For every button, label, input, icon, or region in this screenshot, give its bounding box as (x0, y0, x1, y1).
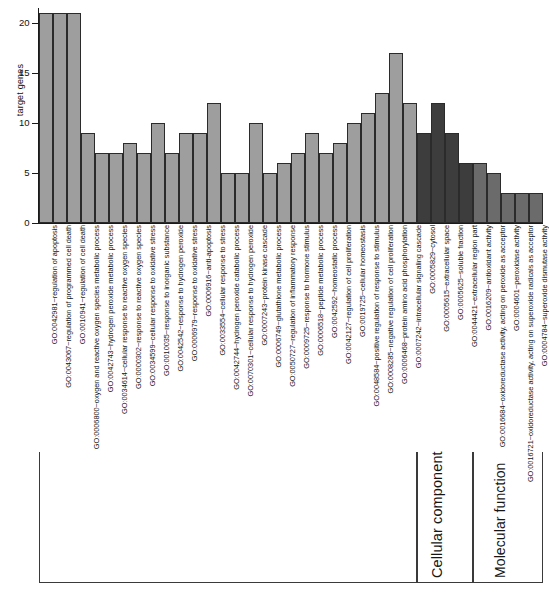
category-label: GO:0009725~response to hormone stimulus (302, 225, 311, 369)
bar (431, 103, 445, 223)
category-label: GO:0000302~response to reactive oxygen s… (134, 225, 143, 389)
bar (165, 153, 179, 223)
category-label: GO:0034599~cellular response to oxidativ… (148, 225, 157, 386)
bar (151, 123, 165, 223)
category-label: GO:0006800~oxygen and reactive oxygen sp… (92, 225, 101, 449)
category-label: GO:0019725~cellular homeostasis (358, 225, 367, 337)
group-bracket (39, 452, 417, 583)
category-label: GO:0010941~regulation of cell death (78, 225, 87, 344)
bar (515, 193, 529, 223)
bar (263, 173, 277, 223)
y-axis-tick-label: 15 (19, 67, 32, 78)
bar (347, 123, 361, 223)
bar (277, 163, 291, 223)
category-label: GO:0042981~regulation of apoptosis (50, 225, 59, 344)
category-label: GO:0005829~cytosol (428, 225, 437, 294)
bar (137, 153, 151, 223)
bar (39, 13, 53, 223)
y-axis-title: target genes (15, 30, 25, 150)
category-label: GO:0004784~superoxide dismutase activity (540, 225, 549, 366)
y-axis-tick: 20 (32, 23, 39, 24)
y-axis-tick-label: 5 (24, 167, 32, 178)
bar (375, 93, 389, 223)
bar (445, 133, 459, 223)
category-labels: GO:0042981~regulation of apoptosisGO:004… (39, 225, 543, 455)
bar (319, 153, 333, 223)
bar (193, 133, 207, 223)
category-label: GO:0005615~extracellular space (442, 225, 451, 332)
bar (249, 123, 263, 223)
category-label: GO:0042744~hydrogen peroxide catabolic p… (232, 225, 241, 390)
category-label: GO:0042743~hydrogen peroxide metabolic p… (106, 225, 115, 392)
bar (417, 133, 431, 223)
bar (501, 193, 515, 223)
bar (95, 153, 109, 223)
category-label: GO:0016721~oxidoreductase activity, acti… (526, 225, 535, 482)
figure-caption (0, 598, 544, 604)
bar (529, 193, 543, 223)
bar (473, 163, 487, 223)
category-label: GO:0050727~regulation of inflammatory re… (288, 225, 297, 387)
category-label: GO:0007243~protein kinase cascade (260, 225, 269, 346)
category-label: GO:0006468~protein amino acid phosphoryl… (400, 225, 409, 384)
y-axis-tick: 10 (32, 123, 39, 124)
y-axis-tick: 5 (32, 173, 39, 174)
group-brackets: Cellular componentMolecular function (39, 452, 543, 587)
bar (389, 53, 403, 223)
category-label: GO:0006749~glutathione metabolic process (274, 225, 283, 367)
y-axis-tick-label: 10 (19, 117, 32, 128)
y-axis-tick-label: 0 (24, 217, 32, 228)
category-label: GO:0005625~soluble fraction (456, 225, 465, 320)
group-name: Molecular function (492, 463, 508, 578)
category-label: GO:0016209~antioxidant activity (484, 225, 493, 330)
bar (179, 133, 193, 223)
category-label: GO:0034614~cellular response to reactive… (120, 225, 129, 414)
category-label: GO:0043067~regulation of programmed cell… (64, 225, 73, 388)
category-label: GO:0007242~intracellular signaling casca… (414, 225, 423, 368)
category-label: GO:0008285~negative regulation of cell p… (386, 225, 395, 394)
bar (403, 103, 417, 223)
bar (123, 143, 137, 223)
category-label: GO:0042592~homeostatic process (330, 225, 339, 338)
y-axis-tick-label: 20 (19, 17, 32, 28)
category-label: GO:0010035~response to inorganic substan… (162, 225, 171, 376)
group-bracket: Molecular function (473, 452, 543, 583)
category-label: GO:0033554~cellular response to stress (218, 225, 227, 356)
bar (67, 13, 81, 223)
bar (53, 13, 67, 223)
group-name: Cellular component (429, 451, 445, 578)
y-axis-tick: 0 (32, 223, 39, 224)
category-label: GO:0044421~extracellular region part (470, 225, 479, 347)
bar (221, 173, 235, 223)
category-label: GO:0016684~oxidoreductase activity, acti… (498, 225, 507, 447)
bar (305, 133, 319, 223)
category-label: GO:0006518~peptide metabolic process (316, 225, 325, 356)
category-label: GO:0006916~anti-apoptosis (204, 225, 213, 316)
category-label: GO:0048584~positive regulation of respon… (372, 225, 381, 407)
bar (207, 103, 221, 223)
bar (235, 173, 249, 223)
category-label: GO:0042127~regulation of cell proliferat… (344, 225, 353, 364)
category-label: GO:0042542~response to hydrogen peroxide (176, 225, 185, 372)
category-label: GO:0006979~response to oxidative stress (190, 225, 199, 361)
y-axis-tick: 15 (32, 73, 39, 74)
bar (361, 113, 375, 223)
bar (109, 153, 123, 223)
category-label: GO:0004601~peroxidase activity (512, 225, 521, 331)
group-bracket: Cellular component (417, 452, 473, 583)
plot-area (39, 8, 543, 223)
bar (459, 163, 473, 223)
bar (291, 153, 305, 223)
bar (81, 133, 95, 223)
bar (333, 143, 347, 223)
category-label: GO:0070301~cellular response to hydrogen… (246, 225, 255, 397)
bar (487, 173, 501, 223)
x-axis-line (39, 223, 543, 224)
